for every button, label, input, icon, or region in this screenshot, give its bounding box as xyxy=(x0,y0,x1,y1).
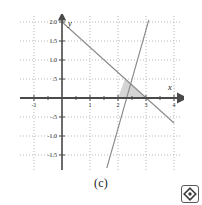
figure-panel: -1 1 2 3 4 2.0 1.5 1.0 .5 -.5 -1.0 -1.5 … xyxy=(0,0,202,205)
x-tick-label: -1 xyxy=(32,102,37,108)
y-tick-label: 1.5 xyxy=(50,38,58,44)
x-tick-label: 4 xyxy=(173,102,176,108)
x-tick-label: 1 xyxy=(89,102,92,108)
y-tick-label: -.5 xyxy=(51,114,58,120)
y-tick-label: 1.0 xyxy=(50,57,58,63)
y-tick-label: -1.5 xyxy=(48,152,58,158)
x-tick-label: 3 xyxy=(145,102,148,108)
coordinate-plot: -1 1 2 3 4 2.0 1.5 1.0 .5 -.5 -1.0 -1.5 … xyxy=(18,14,184,172)
y-axis-label: y xyxy=(67,18,72,28)
y-tick-label: -1.0 xyxy=(48,133,58,139)
x-axis-label: x xyxy=(167,82,172,92)
x-tick-label: 2 xyxy=(117,102,120,108)
figure-caption: (c) xyxy=(0,176,202,191)
y-tick-label: .5 xyxy=(53,76,58,82)
plot-background xyxy=(18,14,184,172)
y-tick-label: 2.0 xyxy=(50,19,58,25)
diamond-icon xyxy=(182,186,198,202)
diamond-badge[interactable] xyxy=(181,185,199,203)
plot-svg: -1 1 2 3 4 2.0 1.5 1.0 .5 -.5 -1.0 -1.5 … xyxy=(18,14,184,172)
